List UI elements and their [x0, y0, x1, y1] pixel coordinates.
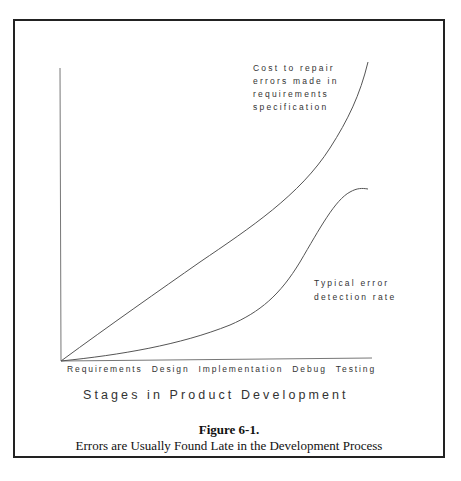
- x-axis: [61, 358, 372, 361]
- x-tick-label: Testing: [336, 364, 376, 374]
- cost-annotation-line: specification: [253, 101, 339, 114]
- x-tick-label: Debug: [292, 364, 327, 374]
- detection-annotation-line: detection rate: [314, 291, 396, 305]
- x-tick-labels: RequirementsDesignImplementationDebugTes…: [67, 364, 385, 374]
- cost-annotation-line: errors made in: [253, 75, 339, 88]
- x-tick-label: Design: [152, 364, 190, 374]
- cost-annotation-line: Cost to repair: [253, 62, 339, 75]
- figure-caption: Errors are Usually Found Late in the Dev…: [13, 438, 445, 454]
- cost-annotation-line: requirements: [253, 88, 339, 101]
- cost-annotation: Cost to repair errors made in requiremen…: [253, 62, 339, 114]
- x-axis-title: Stages in Product Development: [83, 388, 349, 402]
- detection-annotation: Typical error detection rate: [314, 277, 396, 304]
- y-axis: [60, 68, 61, 361]
- figure-number: Figure 6-1.: [13, 422, 445, 438]
- detection-annotation-line: Typical error: [314, 277, 396, 291]
- x-tick-label: Requirements: [67, 364, 143, 374]
- detection-curve: [61, 188, 368, 361]
- x-tick-label: Implementation: [199, 364, 284, 374]
- chart-plot: [0, 0, 461, 481]
